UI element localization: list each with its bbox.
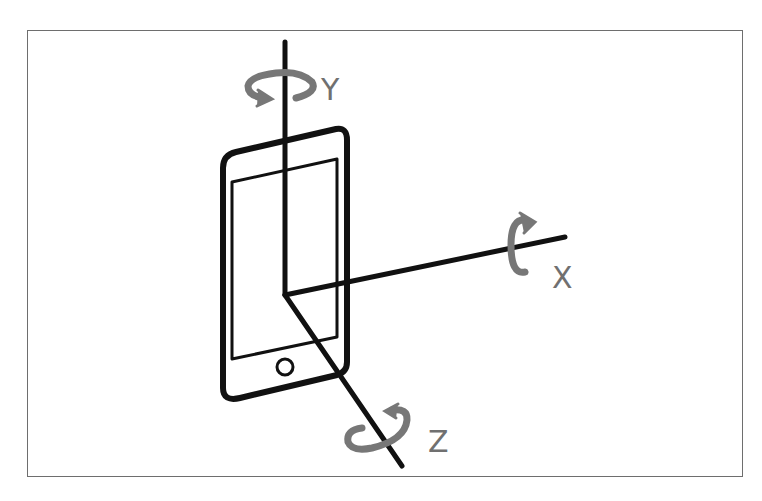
rotation-axes-diagram: Y X Z — [0, 0, 762, 501]
x-axis-line — [285, 237, 565, 295]
z-axis-label: Z — [428, 424, 449, 459]
x-axis-label: X — [552, 260, 573, 295]
y-axis-label: Y — [320, 72, 340, 107]
y-rotation-arrow-icon — [248, 72, 313, 106]
